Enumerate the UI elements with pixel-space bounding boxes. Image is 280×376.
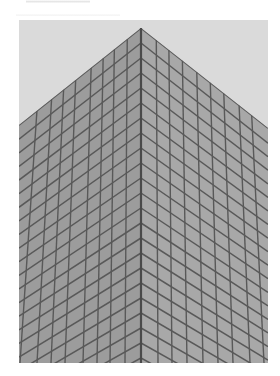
- cropped-caption-text: [26, 0, 90, 3]
- skyscraper-corner-image: [19, 20, 268, 363]
- cropped-caption-underline: [16, 14, 120, 16]
- building-photo: [19, 20, 268, 363]
